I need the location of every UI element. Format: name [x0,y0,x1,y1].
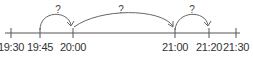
tick-label: 19:30 [0,41,24,53]
number-line-diagram [0,0,253,65]
jump-label-2: ? [118,4,124,15]
jump-label-1: ? [55,4,61,15]
jump-label-3: ? [189,4,195,15]
tick-label: 21:00 [162,41,188,53]
tick-label: 20:00 [60,41,86,53]
tick-label: 19:45 [27,41,53,53]
tick-label: 21:20 [196,41,222,53]
tick-label: 21:30 [223,41,249,53]
jump-arc-3 [175,14,208,30]
jump-arc-1 [40,14,71,30]
